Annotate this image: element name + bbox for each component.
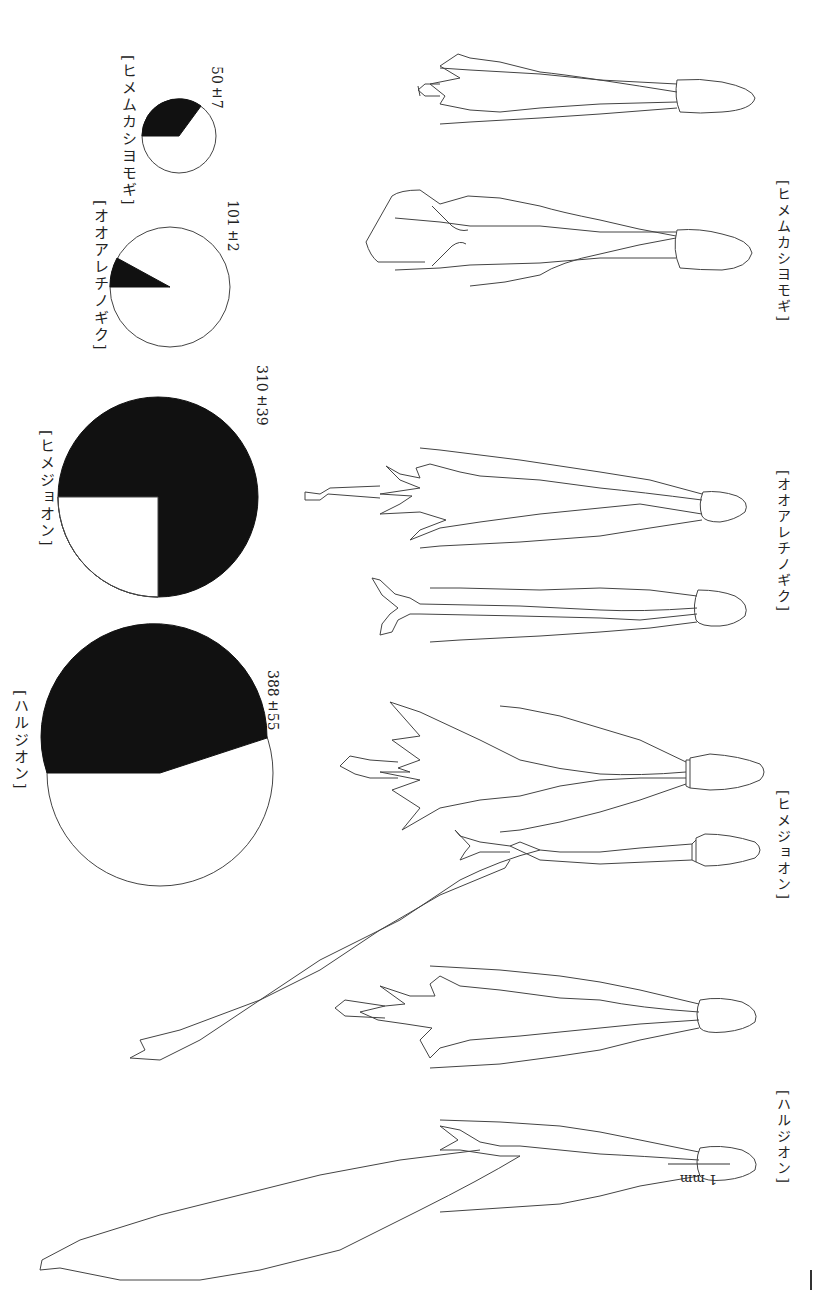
pie-value-ooarechinogiku: 101±2: [225, 200, 241, 252]
pie-himemukashiyomogi: [142, 99, 216, 173]
flower-himemukashiyomogi-1: [366, 190, 752, 286]
pie-himejoon: [58, 397, 258, 597]
species-label-harujion: [ハルジオン]: [773, 1090, 793, 1185]
pie-value-himejoon: 310±39: [254, 365, 270, 426]
pie-label-harujion: [ハルジオン]: [10, 690, 31, 791]
flower-himemukashiyomogi-2: [418, 54, 755, 124]
pie-value-himemukashiyomogi: 50±7: [209, 66, 225, 109]
scale-bar-label: 1 mm: [680, 1172, 717, 1187]
species-label-himejoon: [ヒメジョオン]: [773, 790, 793, 901]
pie-value-harujion: 388±55: [265, 670, 281, 731]
pie-label-himemukashiyomogi: [ヒメムカシヨモギ]: [118, 55, 139, 207]
flower-ooarechinogiku-2: [305, 448, 746, 548]
pie-label-himejoon: [ヒメジョオン]: [36, 430, 57, 548]
pie-label-ooarechinogiku: [オオアレチノギク]: [90, 200, 111, 352]
species-label-ooarechinogiku: [オオアレチノギク]: [773, 470, 793, 613]
flower-harujion-2: [40, 1120, 756, 1280]
flower-himejoon-1: [340, 702, 764, 832]
flower-ooarechinogiku-1: [372, 578, 746, 642]
pie-ooarechinogiku: [110, 227, 230, 347]
species-label-himemukashiyomogi: [ヒメムカシヨモギ]: [773, 180, 793, 323]
flower-harujion-1: [335, 966, 756, 1068]
pie-harujion: [41, 624, 273, 886]
